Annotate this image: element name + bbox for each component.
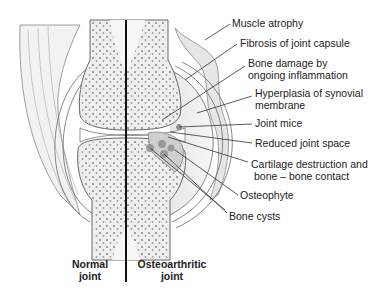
label-osteophyte: Osteophyte — [240, 190, 294, 201]
label-bone-damage-line2: ongoing inflammation — [248, 70, 348, 81]
label-muscle-atrophy: Muscle atrophy — [232, 18, 303, 29]
caption-normal-line2: joint — [62, 270, 118, 282]
label-reduced-joint-space: Reduced joint space — [255, 138, 350, 149]
label-cartilage-line2: bone – bone contact — [254, 171, 349, 182]
caption-normal-line1: Normal — [62, 258, 118, 270]
label-bone-cysts: Bone cysts — [229, 211, 280, 222]
label-hyperplasia-line1: Hyperplasia of synovial — [255, 88, 363, 99]
label-fibrosis: Fibrosis of joint capsule — [240, 38, 350, 49]
label-hyperplasia-line2: membrane — [255, 100, 305, 111]
label-joint-mice: Joint mice — [255, 118, 302, 129]
caption-oa-line1: Osteoarthritic — [134, 258, 210, 270]
caption-osteoarthritic-joint: Osteoarthritic joint — [134, 258, 210, 282]
label-cartilage-line1: Cartilage destruction and — [251, 159, 368, 170]
label-bone-damage-line1: Bone damage by — [248, 58, 327, 69]
upper-bone — [79, 20, 181, 130]
caption-oa-line2: joint — [134, 270, 210, 282]
caption-normal-joint: Normal joint — [62, 258, 118, 282]
